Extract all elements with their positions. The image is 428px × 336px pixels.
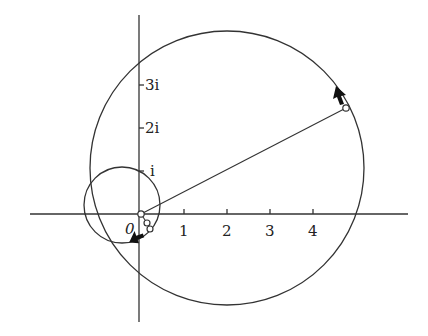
x-tick-label-4: 4 [308, 222, 318, 240]
point-on-large-circle [343, 105, 349, 111]
complex-plane-figure: 1 2 3 4 i 2i 3i 0 [0, 0, 428, 336]
point-origin [138, 211, 144, 217]
x-tick-label-2: 2 [222, 222, 232, 240]
x-ticks [184, 209, 313, 214]
radius-segment [141, 108, 346, 214]
y-tick-label-i: i [150, 162, 155, 180]
y-tick-label-2i: 2i [145, 119, 160, 137]
point-near-origin-1 [144, 220, 150, 226]
point-near-origin-2 [147, 226, 153, 232]
x-tick-label-1: 1 [179, 222, 189, 240]
x-tick-label-3: 3 [265, 222, 275, 240]
y-tick-label-3i: 3i [145, 76, 160, 94]
y-ticks [139, 85, 144, 171]
